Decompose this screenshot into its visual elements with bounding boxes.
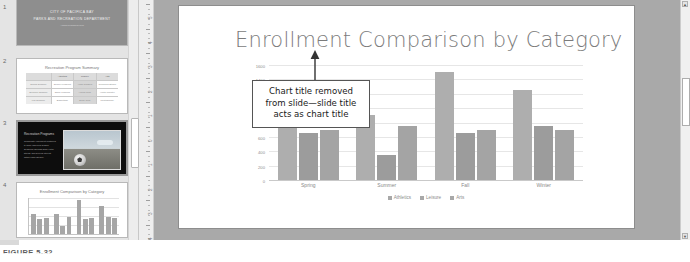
bar[interactable] bbox=[320, 130, 339, 180]
legend-swatch-icon bbox=[450, 196, 454, 200]
ruler-tick bbox=[148, 97, 150, 98]
ruler-label: 1 bbox=[149, 115, 154, 118]
ruler-label: 2 bbox=[149, 188, 154, 191]
table-cell: Spring Session bbox=[26, 81, 51, 88]
ruler-tick bbox=[148, 131, 150, 132]
table-cell: Photography bbox=[97, 97, 118, 104]
table-cell: Hiking Club bbox=[74, 89, 95, 96]
ruler-tick bbox=[148, 48, 150, 49]
table-cell: Athletics bbox=[52, 73, 73, 80]
callout-line-1: Chart title removed bbox=[257, 86, 365, 98]
ruler-tick bbox=[148, 58, 150, 59]
thumbnail-slide-4-canvas[interactable]: Enrollment Comparison by Category ▪▪▪ bbox=[16, 182, 128, 238]
thumbnail-slide-1-canvas[interactable]: CITY OF PACIFICA BAY PARKS AND RECREATIO… bbox=[16, 0, 128, 46]
scrollbar-thumb[interactable] bbox=[682, 78, 690, 126]
y-axis-tick-label: 600 bbox=[258, 135, 265, 140]
bar[interactable] bbox=[477, 130, 496, 180]
slide-title-placeholder[interactable]: Enrollment Comparison by Category bbox=[235, 28, 585, 52]
thumbnail-pane-scrollbar[interactable] bbox=[128, 0, 138, 240]
ruler-tick bbox=[148, 210, 150, 211]
slide-1-title-line1: CITY OF PACIFICA BAY bbox=[17, 10, 127, 14]
ruler-tick bbox=[148, 112, 150, 113]
ruler-label: 1 bbox=[149, 164, 154, 167]
scroll-down-button[interactable]: ▼ bbox=[682, 233, 688, 239]
chart-category-axis: SpringSummerFallWinter bbox=[269, 182, 583, 188]
slide-4-legend: ▪▪▪ bbox=[19, 237, 125, 238]
slide-thumbnail-pane[interactable]: 1 CITY OF PACIFICA BAY PARKS AND RECREAT… bbox=[0, 0, 139, 240]
legend-entry[interactable]: Leisure bbox=[420, 195, 441, 200]
bar[interactable] bbox=[456, 133, 475, 180]
ruler-label: 0 bbox=[149, 139, 154, 142]
ruler-tick bbox=[148, 9, 150, 10]
thumbnail-slide-1[interactable]: 1 CITY OF PACIFICA BAY PARKS AND RECREAT… bbox=[0, 0, 138, 60]
legend-entry[interactable]: Arts bbox=[450, 195, 464, 200]
ruler-tick bbox=[146, 53, 150, 54]
bar[interactable] bbox=[299, 133, 318, 180]
slide-3-text-block: Recreation Programs Community enrollment… bbox=[24, 132, 68, 159]
slide-pane-scrollbar[interactable]: ▲ ▼ bbox=[680, 0, 690, 240]
category-label: Summer bbox=[348, 182, 427, 188]
table-cell: Ceramics Studio bbox=[97, 81, 118, 88]
thumbnail-slide-4[interactable]: 4 Enrollment Comparison by Category ▪▪▪ bbox=[0, 180, 138, 240]
gridline: 0 bbox=[269, 180, 583, 181]
thumbnail-bar bbox=[89, 218, 94, 234]
ruler-tick bbox=[148, 24, 150, 25]
ruler-tick bbox=[148, 185, 150, 186]
ruler-tick bbox=[148, 229, 150, 230]
figure-caption: FIGURE 5-32 bbox=[0, 240, 690, 262]
bar[interactable] bbox=[398, 126, 417, 180]
thumbnail-bar bbox=[67, 217, 72, 234]
thumbnail-number: 1 bbox=[3, 4, 6, 10]
figure-label: FIGURE 5-32 bbox=[3, 248, 53, 257]
thumbnail-slide-3-canvas[interactable]: Recreation Programs Community enrollment… bbox=[16, 120, 128, 176]
legend-entry[interactable]: Athletics bbox=[388, 195, 411, 200]
table-cell bbox=[26, 73, 51, 80]
ruler-tick bbox=[146, 29, 150, 30]
thumbnail-slide-3[interactable]: 3 Recreation Programs Community enrollme… bbox=[0, 118, 138, 180]
slide-1-subtitle: Annual Program Review bbox=[17, 24, 127, 26]
table-cell: Leisure bbox=[74, 73, 95, 80]
ruler-tick bbox=[146, 200, 150, 201]
soccer-ball-icon bbox=[74, 154, 86, 166]
ruler-tick bbox=[148, 82, 150, 83]
bar-group bbox=[505, 65, 584, 180]
ruler-tick bbox=[148, 73, 150, 74]
legend-label: Arts bbox=[456, 195, 464, 200]
category-label: Spring bbox=[269, 182, 348, 188]
y-axis-tick-label: 1600 bbox=[256, 64, 265, 69]
category-label: Fall bbox=[426, 182, 505, 188]
table-cell: Arts bbox=[97, 73, 118, 80]
category-label: Winter bbox=[505, 182, 584, 188]
chart-legend[interactable]: AthleticsLeisureArts bbox=[269, 195, 583, 200]
bar-group bbox=[426, 65, 505, 180]
ruler-tick bbox=[148, 122, 150, 123]
slide-1-background bbox=[17, 0, 127, 45]
legend-label: Leisure bbox=[426, 195, 441, 200]
thumbnail-scrollbar-thumb[interactable] bbox=[131, 118, 139, 168]
callout-line-3: acts as chart title bbox=[257, 109, 365, 121]
slide-1-title-line2: PARKS AND RECREATION DEPARTMENT bbox=[17, 17, 127, 21]
slide-3-bullet: within each category bbox=[24, 155, 68, 159]
bar[interactable] bbox=[534, 126, 553, 180]
bar[interactable] bbox=[513, 90, 532, 180]
current-slide[interactable]: Enrollment Comparison by Category 160014… bbox=[179, 6, 634, 228]
ruler-label: 2 bbox=[149, 90, 154, 93]
ruler-tick bbox=[146, 127, 150, 128]
table-cell: Yoga Classes bbox=[74, 81, 95, 88]
bar[interactable] bbox=[435, 72, 454, 180]
table-cell: Youth Theater bbox=[97, 89, 118, 96]
ruler-tick bbox=[148, 234, 150, 235]
ruler-tick bbox=[148, 107, 150, 108]
thumbnail-slide-2[interactable]: 2 Recreation Program Summary Athletics L… bbox=[0, 56, 138, 118]
thumbnail-bar bbox=[37, 219, 42, 234]
ruler-tick bbox=[148, 161, 150, 162]
scroll-up-button[interactable]: ▲ bbox=[682, 1, 688, 7]
slide-editing-stage[interactable]: Enrollment Comparison by Category 160014… bbox=[154, 0, 690, 240]
bar[interactable] bbox=[377, 155, 396, 180]
slide-2-title: Recreation Program Summary bbox=[19, 65, 125, 70]
thumbnail-slide-2-canvas[interactable]: Recreation Program Summary Athletics Lei… bbox=[16, 58, 128, 114]
slide-3-heading: Recreation Programs bbox=[24, 132, 68, 136]
callout-line-2: from slide—slide title bbox=[257, 98, 365, 110]
thumbnail-bar bbox=[54, 214, 59, 234]
bar[interactable] bbox=[555, 130, 574, 180]
